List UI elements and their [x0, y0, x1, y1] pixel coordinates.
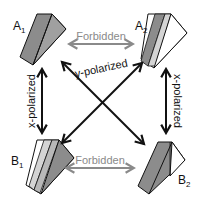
- forbidden-label-top: Forbidden: [76, 30, 126, 42]
- prism-a2: [141, 14, 187, 68]
- x-polarized-label-right: x-polarized: [172, 74, 184, 128]
- polarization-transition-diagram: Forbidden Forbidden x-polarized x-polari…: [0, 0, 199, 204]
- node-label-a1: A1: [13, 19, 26, 35]
- node-label-b2: B2: [178, 173, 191, 189]
- node-label-a2: A2: [135, 19, 148, 35]
- prism-a1: [20, 14, 66, 65]
- diagram-graphics: Forbidden Forbidden x-polarized x-polari…: [0, 0, 199, 204]
- forbidden-label-bottom: Forbidden: [75, 154, 125, 166]
- y-polarized-label: y-polarized: [74, 57, 129, 80]
- node-label-b1: B1: [11, 154, 24, 170]
- x-polarized-label-left: x-polarized: [25, 74, 37, 128]
